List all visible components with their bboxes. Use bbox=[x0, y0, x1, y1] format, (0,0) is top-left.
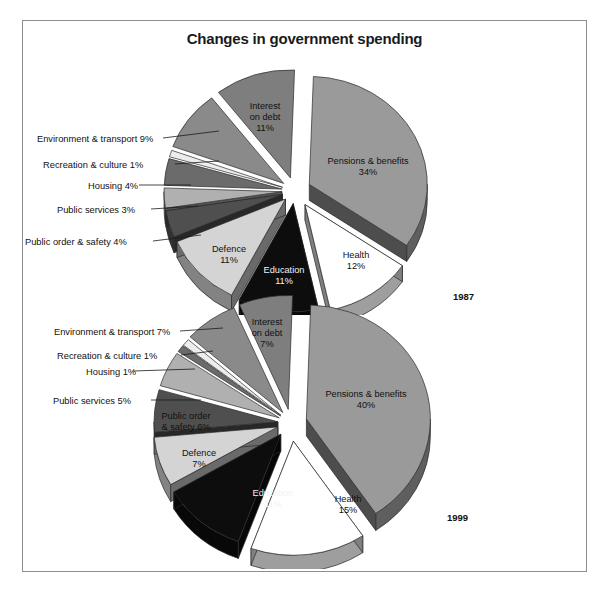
label-education-1999: Education 11% bbox=[238, 488, 308, 510]
label-defence-1999: Defence 7% bbox=[170, 448, 228, 470]
label-defence-1987: Defence 11% bbox=[200, 244, 258, 266]
label-recreation-culture-1987: Recreation & culture 1% bbox=[43, 160, 143, 170]
label-health-1987: Health 12% bbox=[328, 250, 384, 272]
label-interest-on-debt-1987: Interest on debt 11% bbox=[233, 101, 297, 134]
pie-chart-1987: Environment & transport 9% Recreation & … bbox=[23, 39, 588, 315]
label-pensions-benefits-1999: Pensions & benefits 40% bbox=[306, 389, 426, 411]
label-housing-1999: Housing 1% bbox=[86, 367, 136, 377]
label-health-1999: Health 15% bbox=[320, 494, 376, 516]
label-education-1987: Education 11% bbox=[251, 265, 317, 287]
label-public-services-1999: Public services 5% bbox=[53, 396, 131, 406]
label-recreation-culture-1999: Recreation & culture 1% bbox=[57, 351, 157, 361]
label-pensions-benefits-1987: Pensions & benefits 34% bbox=[308, 156, 428, 178]
label-environment-transport-1999: Environment & transport 7% bbox=[54, 327, 170, 337]
label-public-services-1987: Public services 3% bbox=[57, 205, 135, 215]
label-public-order-safety-1987: Public order & safety 4% bbox=[25, 237, 127, 247]
label-environment-transport-1987: Environment & transport 9% bbox=[37, 134, 153, 144]
chart-frame: Changes in government spending Environme… bbox=[22, 20, 587, 572]
pie-chart-1999: Environment & transport 7% Recreation & … bbox=[23, 293, 588, 569]
label-housing-1987: Housing 4% bbox=[88, 181, 138, 191]
label-public-order-safety-1999: Public order & safety 6% bbox=[149, 411, 223, 433]
label-interest-on-debt-1999: Interest on debt 7% bbox=[235, 317, 299, 350]
year-label-1999: 1999 bbox=[447, 512, 468, 523]
